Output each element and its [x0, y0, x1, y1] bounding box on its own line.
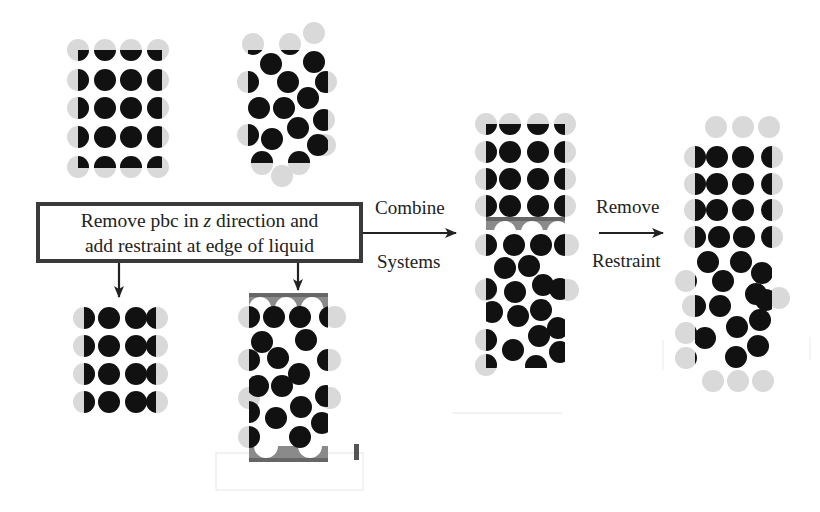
- instruction-line-2: add restraint at edge of liquid: [40, 233, 359, 258]
- instruction-line-1: Remove pbc in z direction and: [40, 208, 359, 233]
- label-systems: Systems: [377, 252, 440, 271]
- panel-liquid-restrained: [216, 293, 363, 490]
- solid-particles: [67, 39, 169, 178]
- instruction-text: direction and: [211, 210, 318, 231]
- panel-final: [663, 116, 810, 392]
- liquid-particles: [237, 33, 337, 173]
- instruction-text: Remove pbc in: [81, 210, 204, 231]
- combined-particles: [475, 113, 576, 377]
- instruction-box: Remove pbc in z direction and add restra…: [36, 202, 363, 263]
- solid-particles: [73, 307, 168, 413]
- label-remove: Remove: [596, 197, 659, 216]
- panel-solid-restrained: [73, 307, 168, 413]
- panel-liquid-periodic: [237, 22, 337, 187]
- small-marker: [354, 444, 359, 460]
- panel-combined: [452, 113, 579, 413]
- label-combine: Combine: [375, 198, 445, 217]
- label-restraint: Restraint: [592, 251, 661, 270]
- panel-solid-periodic: [67, 39, 169, 178]
- liquid-particles: [238, 306, 341, 448]
